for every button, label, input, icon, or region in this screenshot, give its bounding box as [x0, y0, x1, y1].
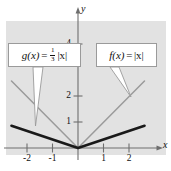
equation-g-fraction: 1 3	[50, 47, 56, 63]
x-axis-label: x	[163, 139, 167, 150]
plot-canvas	[0, 0, 171, 171]
callout-f-equation: f(x) = |x|	[96, 43, 157, 67]
equation-f-equals: =	[125, 50, 132, 61]
x-tick-label--2: -2	[19, 153, 35, 163]
equation-f: f(x) = |x|	[109, 50, 145, 61]
y-tick-label-2: 2	[58, 90, 71, 100]
equation-g-equals: =	[40, 50, 47, 61]
y-axis-arrow	[76, 7, 81, 14]
x-tick-label-2: 2	[123, 153, 136, 163]
equation-g-abs: |x|	[57, 50, 67, 61]
y-axis-label: y	[81, 3, 85, 14]
equation-g-fraction-denominator: 3	[50, 55, 56, 63]
plot-background	[6, 21, 166, 155]
equation-g-name: g(x)	[22, 50, 40, 61]
y-tick-label-1: 1	[58, 116, 71, 126]
x-tick-label-1: 1	[97, 153, 110, 163]
equation-f-abs: |x|	[134, 50, 144, 61]
x-tick-label--1: -1	[45, 153, 61, 163]
callout-g-equation: g(x) = 1 3 |x|	[8, 43, 81, 67]
equation-f-name: f(x)	[109, 50, 124, 61]
equation-g-fraction-numerator: 1	[50, 47, 56, 54]
equation-g: g(x) = 1 3 |x|	[21, 47, 68, 63]
figure-absolute-value-graph: g(x) = 1 3 |x| f(x) = |x| y x -2 -1 1 2 …	[0, 0, 171, 171]
